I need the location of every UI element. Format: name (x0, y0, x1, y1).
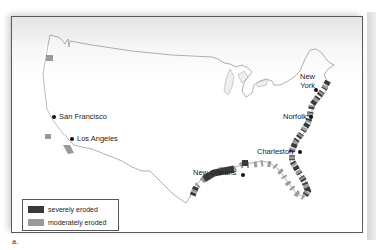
severe-swatch (28, 206, 44, 213)
city-label-norfolk: Norfolk (283, 112, 307, 121)
legend-item-severe: severely eroded (28, 205, 98, 214)
page-edge-shadow (367, 12, 376, 240)
legend-label-severe: severely eroded (48, 206, 98, 213)
city-label-new-orleans: New Orleans (193, 168, 236, 177)
city-dot-norfolk (309, 115, 313, 119)
legend-item-moderate: moderately eroded (28, 218, 106, 227)
moderate-erosion-segment (45, 134, 51, 139)
moderate-erosion-segment (46, 55, 53, 61)
map-legend: severely eroded moderately eroded (22, 199, 119, 231)
city-dot-los-angeles (70, 137, 74, 141)
city-label-san-francisco: San Francisco (59, 112, 107, 121)
city-label-new-york: New York (300, 72, 315, 90)
city-dot-new-orleans (241, 173, 245, 177)
map-frame: San Francisco Los Angeles New York Norfo… (11, 16, 363, 233)
city-label-los-angeles: Los Angeles (77, 134, 118, 143)
panel-label: a. (12, 236, 18, 246)
city-label-new-york-line2: York (300, 81, 315, 90)
legend-label-moderate: moderately eroded (48, 219, 106, 226)
city-label-charleston: Charleston (257, 147, 293, 156)
moderate-swatch (28, 219, 44, 226)
city-dot-charleston (298, 150, 302, 154)
city-dot-san-francisco (52, 115, 56, 119)
city-label-new-york-line1: New (300, 72, 315, 81)
